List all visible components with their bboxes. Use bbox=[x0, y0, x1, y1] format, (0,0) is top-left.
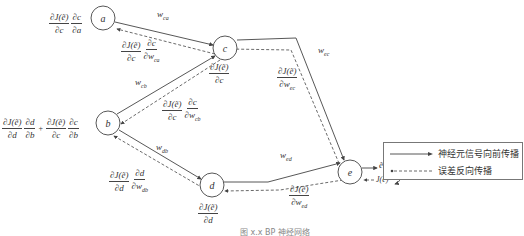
gradient-w-cb: ∂J(ẽ)∂c ∂c∂wcb bbox=[161, 97, 202, 124]
solid-arrow-icon bbox=[390, 151, 434, 157]
gradient-w-ec: ∂J(ẽ)∂wec bbox=[276, 66, 298, 93]
weight-w-db: wdb bbox=[156, 142, 168, 154]
gradient-b: ∂J(ẽ)∂d ∂d∂b + ∂J(ẽ)∂c ∂c∂b bbox=[1, 117, 80, 140]
gradient-w-ca: ∂J(ẽ)∂c ∂c∂wca bbox=[120, 38, 161, 65]
gradient-w-ed: ∂J(ẽ)∂wed bbox=[288, 184, 310, 211]
gradient-d: ∂J(ẽ)∂d bbox=[197, 202, 219, 225]
legend-backward: 误差反向传播 bbox=[390, 164, 492, 177]
node-e-label: e bbox=[348, 167, 352, 178]
weight-w-ca: wca bbox=[157, 9, 169, 21]
legend-forward: 神经元信号向前传播 bbox=[390, 147, 519, 160]
node-c-label: c bbox=[223, 43, 227, 54]
weight-w-cb: wcb bbox=[135, 77, 147, 89]
edge-d-e bbox=[224, 163, 340, 182]
node-b-label: b bbox=[106, 118, 111, 129]
node-d-label: d bbox=[210, 180, 215, 191]
legend-backward-label: 误差反向传播 bbox=[438, 164, 492, 177]
gradient-w-db: ∂J(ẽ)∂d ∂d∂wdb bbox=[108, 168, 149, 195]
dashed-arrow-icon bbox=[390, 168, 434, 174]
gradient-a: ∂J(ẽ)∂c ∂c∂a bbox=[48, 12, 83, 35]
legend-forward-label: 神经元信号向前传播 bbox=[438, 147, 519, 160]
legend: 神经元信号向前传播 误差反向传播 bbox=[383, 142, 523, 180]
weight-w-ed: wed bbox=[280, 150, 292, 162]
gradient-c: ∂J(ẽ)∂c bbox=[208, 62, 230, 85]
weight-w-ec: wec bbox=[318, 45, 329, 57]
node-a-label: a bbox=[101, 13, 106, 24]
figure-caption: 图 x.x BP 神经网络 bbox=[240, 226, 310, 236]
